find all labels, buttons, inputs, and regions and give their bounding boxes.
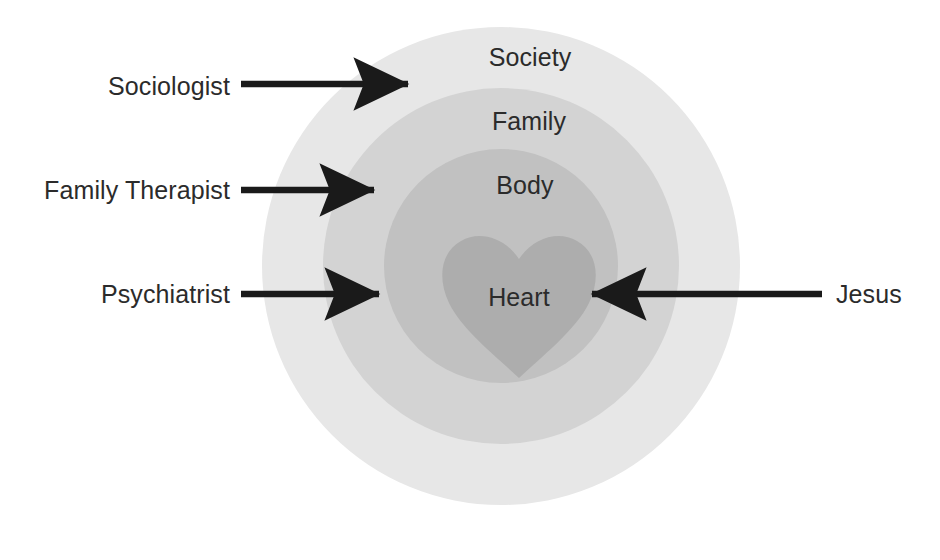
annotation-label-sociologist: Sociologist <box>108 74 230 99</box>
ring-label-heart: Heart <box>488 285 550 310</box>
ring-label-society: Society <box>489 45 572 70</box>
diagram-canvas: Society Family Body Heart Sociologist Fa… <box>0 0 940 560</box>
ring-label-family: Family <box>492 109 566 134</box>
annotation-label-family-therapist: Family Therapist <box>44 178 230 203</box>
ring-label-body: Body <box>496 173 553 198</box>
annotation-label-jesus: Jesus <box>836 282 902 307</box>
annotation-label-psychiatrist: Psychiatrist <box>101 282 230 307</box>
